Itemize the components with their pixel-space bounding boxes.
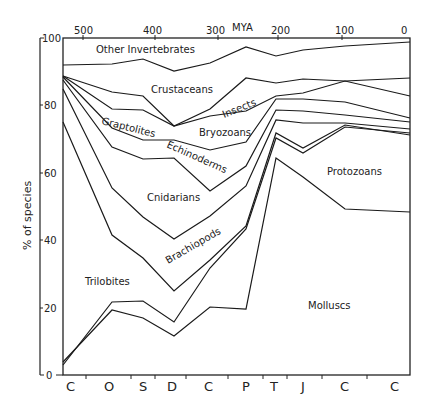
boundary-lines <box>63 42 410 375</box>
label-crustaceans: Crustaceans <box>151 84 213 95</box>
y-tick-20: 20 <box>44 303 57 314</box>
y-tick-60: 60 <box>44 168 57 179</box>
boundary-brachiopods <box>63 122 410 291</box>
y-axis-label: % of species <box>21 181 34 250</box>
boundary-molluscs <box>63 158 410 362</box>
label-protozoans: Protozoans <box>327 166 382 177</box>
plot-frame <box>63 38 410 375</box>
y-axis: 100 80 60 40 20 0 % of species <box>21 33 63 381</box>
period-jurassic: J <box>300 379 305 394</box>
label-brachiopods: Brachiopods <box>164 225 223 265</box>
x-tick-100: 100 <box>335 25 354 36</box>
period-cenozoic: C <box>390 379 399 394</box>
y-tick-0: 0 <box>46 370 52 381</box>
y-tick-40: 40 <box>44 235 57 246</box>
period-cambrian: C <box>66 379 75 394</box>
x-tick-300: 300 <box>206 25 225 36</box>
period-ordovician: O <box>104 379 114 394</box>
x-tick-400: 400 <box>143 25 162 36</box>
x-tick-0: 0 <box>401 25 407 36</box>
top-axis: 500 400 300 MYA 200 100 0 <box>74 22 407 40</box>
diversity-chart: 100 80 60 40 20 0 % of species 500 400 3… <box>0 0 429 415</box>
label-bryozoans: Bryozoans <box>199 127 251 138</box>
label-molluscs: Molluscs <box>308 300 351 311</box>
y-tick-100: 100 <box>42 33 61 44</box>
label-echinoderms: Echinoderms <box>165 139 229 175</box>
label-insects: Insects <box>221 96 258 119</box>
boundary-trilobites <box>63 127 410 365</box>
label-other-invertebrates: Other Invertebrates <box>96 44 195 55</box>
period-devonian: D <box>167 379 177 394</box>
label-trilobites: Trilobites <box>84 276 130 287</box>
label-cnidarians: Cnidarians <box>147 192 200 203</box>
period-silurian: S <box>139 379 147 394</box>
x-tick-200: 200 <box>271 25 290 36</box>
period-carboniferous: C <box>204 379 213 394</box>
period-triassic: T <box>269 379 278 394</box>
period-axis: C O S D C P T J C C <box>66 375 399 394</box>
mya-label: MYA <box>232 22 253 33</box>
period-cretaceous: C <box>340 379 349 394</box>
x-tick-500: 500 <box>74 25 93 36</box>
label-graptolites: Graptolites <box>101 115 157 139</box>
y-tick-80: 80 <box>44 100 57 111</box>
period-permian: P <box>242 379 250 394</box>
